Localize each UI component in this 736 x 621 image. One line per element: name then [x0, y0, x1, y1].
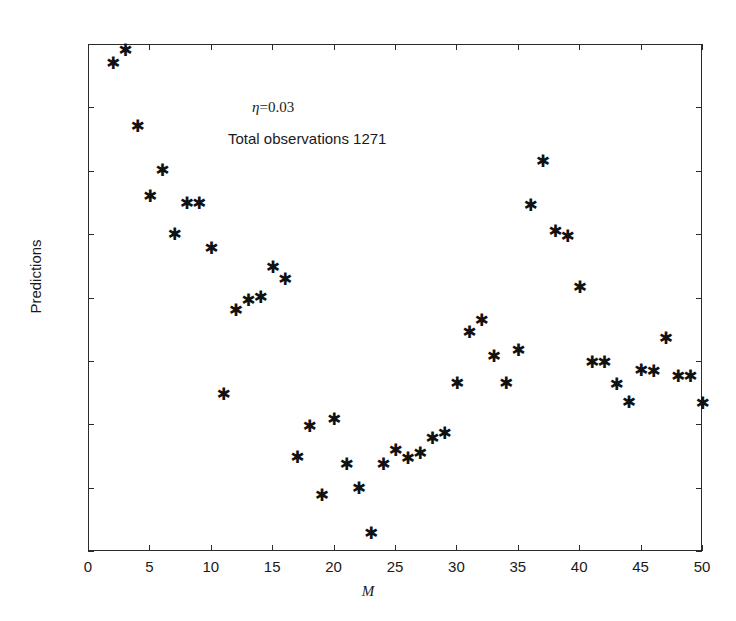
data-point: ✱	[560, 230, 573, 243]
y-tick-mark	[88, 44, 94, 45]
y-tick-mark-right	[696, 234, 702, 235]
x-axis-label: M	[0, 583, 736, 600]
data-point: ✱	[364, 527, 377, 540]
x-tick-mark	[211, 545, 212, 551]
annotation-eta: η=0.03	[252, 99, 294, 116]
x-tick-label: 50	[694, 558, 711, 575]
x-tick-mark	[518, 545, 519, 551]
x-tick-mark	[641, 545, 642, 551]
y-tick-mark-right	[696, 44, 702, 45]
x-tick-mark-top	[579, 44, 580, 50]
x-tick-label: 20	[325, 558, 342, 575]
data-point: ✱	[327, 413, 340, 426]
data-point: ✱	[118, 44, 131, 57]
y-tick-mark	[88, 234, 94, 235]
data-point: ✱	[204, 242, 217, 255]
x-tick-label: 35	[509, 558, 526, 575]
data-point: ✱	[278, 273, 291, 286]
data-point: ✱	[229, 304, 242, 317]
x-tick-mark-top	[149, 44, 150, 50]
data-point: ✱	[597, 356, 610, 369]
x-tick-label: 15	[264, 558, 281, 575]
y-tick-mark-right	[696, 171, 702, 172]
data-point: ✱	[659, 332, 672, 345]
x-tick-label: 10	[202, 558, 219, 575]
y-tick-mark	[88, 361, 94, 362]
data-point: ✱	[253, 291, 266, 304]
data-point: ✱	[401, 452, 414, 465]
plot-area: ✱✱✱✱✱✱✱✱✱✱✱✱✱✱✱✱✱✱✱✱✱✱✱✱✱✱✱✱✱✱✱✱✱✱✱✱✱✱✱✱…	[88, 44, 702, 551]
data-point: ✱	[143, 190, 156, 203]
y-tick-mark	[88, 488, 94, 489]
x-tick-label: 0	[84, 558, 92, 575]
y-tick-mark	[88, 551, 94, 552]
x-tick-mark-top	[641, 44, 642, 50]
x-tick-mark	[272, 545, 273, 551]
data-point: ✱	[573, 281, 586, 294]
y-tick-mark	[88, 424, 94, 425]
data-point: ✱	[192, 197, 205, 210]
annotation-total-observations: Total observations 1271	[228, 130, 386, 147]
x-tick-mark-top	[518, 44, 519, 50]
data-point: ✱	[622, 396, 635, 409]
x-tick-mark-top	[395, 44, 396, 50]
data-point: ✱	[671, 370, 684, 383]
x-tick-label: 40	[571, 558, 588, 575]
data-point: ✱	[683, 370, 696, 383]
x-tick-mark-top	[334, 44, 335, 50]
x-tick-mark-top	[702, 44, 703, 50]
data-point: ✱	[413, 447, 426, 460]
data-point: ✱	[303, 420, 316, 433]
x-tick-mark	[395, 545, 396, 551]
y-tick-mark-right	[696, 551, 702, 552]
y-tick-mark	[88, 171, 94, 172]
data-point: ✱	[217, 388, 230, 401]
data-point: ✱	[450, 377, 463, 390]
data-point: ✱	[438, 427, 451, 440]
data-point: ✱	[389, 444, 402, 457]
y-tick-mark-right	[696, 107, 702, 108]
x-tick-mark	[334, 545, 335, 551]
data-point: ✱	[499, 377, 512, 390]
data-point: ✱	[290, 451, 303, 464]
x-tick-mark	[456, 545, 457, 551]
y-tick-mark-right	[696, 298, 702, 299]
x-tick-label: 25	[387, 558, 404, 575]
y-axis-label: Predictions	[27, 217, 44, 337]
x-tick-mark-top	[211, 44, 212, 50]
data-point: ✱	[106, 57, 119, 70]
data-point: ✱	[696, 397, 709, 410]
x-tick-mark-top	[456, 44, 457, 50]
y-tick-mark	[88, 298, 94, 299]
x-tick-mark	[702, 545, 703, 551]
data-point: ✱	[511, 344, 524, 357]
x-tick-mark	[149, 545, 150, 551]
data-point: ✱	[167, 228, 180, 241]
eta-value: =0.03	[259, 99, 294, 115]
data-point: ✱	[548, 225, 561, 238]
x-tick-mark-top	[272, 44, 273, 50]
y-tick-mark-right	[696, 488, 702, 489]
data-point: ✱	[487, 350, 500, 363]
data-point: ✱	[474, 314, 487, 327]
data-point: ✱	[155, 164, 168, 177]
data-point: ✱	[131, 120, 144, 133]
data-point: ✱	[536, 155, 549, 168]
data-point: ✱	[376, 458, 389, 471]
data-point: ✱	[315, 489, 328, 502]
x-tick-label: 5	[145, 558, 153, 575]
data-point: ✱	[524, 199, 537, 212]
y-tick-mark	[88, 107, 94, 108]
x-tick-label: 30	[448, 558, 465, 575]
y-tick-mark-right	[696, 424, 702, 425]
data-point: ✱	[241, 294, 254, 307]
data-point: ✱	[634, 364, 647, 377]
data-point: ✱	[339, 458, 352, 471]
scatter-plot-figure: ✱✱✱✱✱✱✱✱✱✱✱✱✱✱✱✱✱✱✱✱✱✱✱✱✱✱✱✱✱✱✱✱✱✱✱✱✱✱✱✱…	[0, 0, 736, 621]
data-point: ✱	[180, 197, 193, 210]
data-point: ✱	[352, 482, 365, 495]
data-point: ✱	[646, 365, 659, 378]
y-tick-mark-right	[696, 361, 702, 362]
data-point: ✱	[610, 378, 623, 391]
data-point: ✱	[585, 356, 598, 369]
